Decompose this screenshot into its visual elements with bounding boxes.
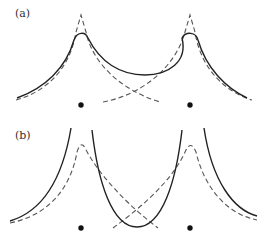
dashed-curve-right <box>113 145 257 228</box>
panel-a-plot <box>0 0 269 122</box>
center-dot-right <box>187 225 192 230</box>
solid-curve-left-outer <box>10 128 71 221</box>
center-dot-right <box>187 102 192 107</box>
center-dot-left <box>78 225 83 230</box>
panel-b-plot <box>0 122 269 244</box>
dashed-curve-left <box>10 145 158 228</box>
solid-total-curve <box>17 33 247 98</box>
panel-b: (b) <box>0 122 269 244</box>
panel-a: (a) <box>0 0 269 122</box>
center-dot-left <box>78 102 83 107</box>
dashed-curve-right <box>103 15 252 102</box>
dashed-curve-left <box>16 15 160 102</box>
solid-curve-right-outer <box>204 128 257 216</box>
